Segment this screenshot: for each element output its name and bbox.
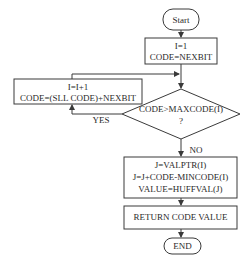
start-label: Start [163,15,199,25]
init-line-2: CODE=NEXBIT [145,52,217,62]
yes-label: YES [88,115,114,125]
return-label: RETURN CODE VALUE [124,212,237,222]
decision-line-1: CODE>MAXCODE(I) [131,104,231,114]
end-label: END [164,241,201,251]
decision-line-2: ? [131,116,231,126]
loop-line-2: CODE=(SLL CODE)+NEXBIT [14,93,142,103]
compute-line-3: VALUE=HUFFVAL(J) [124,184,237,194]
compute-line-1: J=VALPTR(I) [124,160,237,170]
loop-line-1: I=I+1 [14,82,142,92]
init-line-1: I=1 [145,41,217,51]
no-label: NO [186,145,206,155]
connector-yes-branch [72,105,122,114]
compute-line-2: J=J+CODE-MINCODE(I) [124,172,237,182]
connector-loop-return [72,74,179,79]
